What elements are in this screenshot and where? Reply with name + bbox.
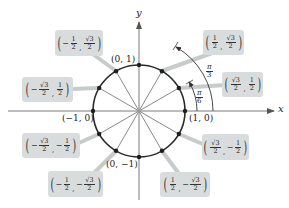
y-fraction: √32 (226, 35, 236, 50)
coord-box-q1-60: ( 12 , √32 ) (203, 30, 244, 55)
x-den: 2 (233, 85, 239, 92)
x-den: 2 (41, 90, 47, 97)
x-axis-label: x (278, 104, 284, 114)
left-paren: ( (224, 76, 228, 93)
x-fraction: √32 (231, 77, 241, 92)
x-sign: − (31, 141, 38, 150)
comma: , (79, 44, 81, 52)
left-paren: ( (57, 35, 61, 52)
left-paren: ( (26, 137, 30, 154)
angle-label-pi3: π 3 (206, 64, 213, 80)
x-fraction: √32 (210, 140, 220, 155)
y-axis-label: y (136, 8, 142, 18)
left-paren: ( (163, 176, 167, 193)
x-fraction: 12 (71, 36, 77, 51)
point-label-bottom: (0, −1) (106, 160, 138, 169)
right-paren: ) (238, 34, 242, 51)
y-fraction: √32 (190, 177, 200, 192)
y-fraction: √32 (84, 177, 94, 192)
y-sign: − (56, 141, 63, 150)
right-paren: ) (66, 81, 70, 98)
point-120 (114, 69, 118, 73)
comma: , (52, 90, 54, 98)
comma: , (220, 43, 222, 51)
x-den: 2 (41, 146, 47, 153)
coord-box-q2-120: ( − 12 , √32 ) (55, 30, 103, 56)
y-sign: − (182, 180, 189, 189)
y-fraction: 12 (249, 77, 255, 92)
y-den: 2 (86, 44, 92, 51)
point-60 (160, 69, 164, 73)
angle-pi3-den: 3 (207, 72, 211, 79)
point-label-right: (1, 0) (189, 114, 213, 123)
left-paren: ( (204, 139, 208, 156)
x-fraction: 12 (170, 177, 176, 192)
x-den: 2 (170, 185, 176, 192)
point-150 (97, 86, 101, 90)
right-paren: ) (97, 35, 101, 52)
origin-point (137, 109, 141, 113)
y-sign: − (76, 180, 83, 189)
comma: , (52, 146, 54, 154)
comma: , (223, 148, 225, 156)
point-240 (114, 149, 118, 153)
left-paren: ( (26, 81, 30, 98)
x-fraction: 12 (212, 35, 218, 50)
x-sign: − (31, 85, 38, 94)
y-fraction: 12 (235, 140, 241, 155)
coord-box-q4-330: ( √32 , − 12 ) (202, 134, 249, 160)
x-fraction: 12 (64, 177, 70, 192)
y-den: 2 (57, 90, 63, 97)
x-den: 2 (71, 44, 77, 51)
coord-box-q2-150: ( − √32 , 12 ) (22, 77, 73, 102)
right-paren: ) (257, 76, 261, 93)
comma: , (243, 85, 245, 93)
x-sign: − (62, 39, 69, 48)
comma: , (72, 185, 74, 193)
right-paren: ) (97, 176, 101, 193)
y-den: 2 (86, 185, 92, 192)
point-label-left: (−1, 0) (62, 114, 94, 123)
right-paren: ) (203, 176, 207, 193)
comma: , (178, 185, 180, 193)
point-30 (177, 86, 181, 90)
right-paren: ) (244, 139, 248, 156)
coord-box-q3-240: ( − 12 , − √32 ) (48, 171, 103, 197)
y-fraction: 12 (64, 138, 70, 153)
unit-circle-diagram (0, 0, 289, 208)
x-den: 2 (212, 148, 218, 155)
x-den: 2 (64, 185, 70, 192)
coord-box-q4-300: ( 12 , − √32 ) (160, 172, 210, 197)
y-den: 2 (192, 185, 198, 192)
y-fraction: √32 (84, 36, 94, 51)
left-paren: ( (50, 176, 54, 193)
angle-pi6-den: 6 (197, 98, 201, 105)
point-300 (160, 149, 164, 153)
point-90 (137, 63, 141, 67)
point-label-top: (0, 1) (111, 55, 135, 64)
x-sign: − (55, 180, 62, 189)
y-sign: − (227, 143, 234, 152)
point-0 (183, 109, 187, 113)
x-fraction: √32 (39, 82, 49, 97)
angle-label-pi6: π 6 (196, 90, 203, 106)
y-den: 2 (228, 43, 234, 50)
right-paren: ) (73, 137, 77, 154)
y-den: 2 (249, 85, 255, 92)
point-330 (177, 132, 181, 136)
y-den: 2 (235, 148, 241, 155)
x-fraction: √32 (39, 138, 49, 153)
point-210 (97, 132, 101, 136)
y-den: 2 (64, 146, 70, 153)
x-den: 2 (212, 43, 218, 50)
coord-box-q1-30: ( √32 , 12 ) (222, 72, 263, 97)
y-fraction: 12 (57, 82, 63, 97)
left-paren: ( (205, 34, 209, 51)
coord-box-q3-210: ( − √32 , − 12 ) (22, 133, 80, 158)
